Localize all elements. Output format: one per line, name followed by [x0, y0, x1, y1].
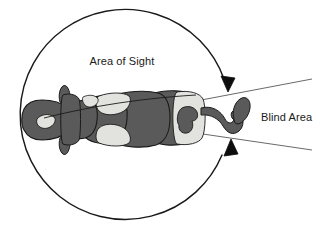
area-of-sight-label: Area of Sight [90, 55, 155, 67]
blind-area-label: Blind Area [261, 111, 313, 123]
cow-poll [61, 94, 81, 145]
area-of-sight-diagram: Area of Sight Blind Area [0, 0, 319, 238]
diagram-canvas: Area of Sight Blind Area [0, 0, 319, 238]
